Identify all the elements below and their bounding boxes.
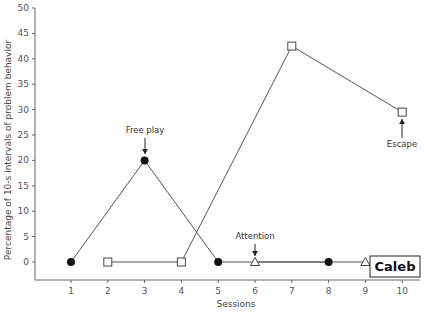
annotations: Free play Attention Escape bbox=[126, 119, 418, 256]
arrow-escape-head bbox=[399, 119, 405, 124]
series-lines bbox=[71, 46, 402, 262]
x-tick-label: 1 bbox=[68, 286, 74, 296]
x-tick-label: 3 bbox=[142, 286, 148, 296]
data-point-circle bbox=[214, 258, 222, 266]
data-point-circle bbox=[67, 258, 75, 266]
x-tick-label: 5 bbox=[215, 286, 221, 296]
data-point-square bbox=[288, 42, 296, 50]
y-tick-label: 10 bbox=[18, 206, 30, 216]
data-point-square bbox=[104, 258, 112, 266]
y-tick-label: 25 bbox=[18, 130, 29, 140]
y-tick-label: 0 bbox=[23, 257, 29, 267]
y-tick-label: 45 bbox=[18, 28, 29, 38]
line-chart: 0510152025303540455012345678910 Free pla… bbox=[0, 0, 424, 312]
y-tick-label: 50 bbox=[18, 3, 30, 13]
annotation-escape: Escape bbox=[387, 139, 417, 149]
arrow-attention-head bbox=[252, 251, 258, 256]
data-point-circle bbox=[325, 258, 333, 266]
series-line-free-play bbox=[71, 160, 329, 262]
panel-label: Caleb bbox=[375, 259, 416, 274]
x-tick-label: 7 bbox=[289, 286, 295, 296]
x-tick-label: 9 bbox=[363, 286, 369, 296]
y-tick-label: 40 bbox=[18, 54, 30, 64]
panel-label-box: Caleb bbox=[370, 256, 420, 277]
y-tick-label: 30 bbox=[18, 105, 30, 115]
y-tick-label: 20 bbox=[18, 155, 30, 165]
x-tick-label: 10 bbox=[396, 286, 408, 296]
annotation-free-play: Free play bbox=[126, 125, 165, 135]
annotation-attention: Attention bbox=[235, 231, 274, 241]
x-tick-label: 2 bbox=[105, 286, 111, 296]
series-line-escape bbox=[108, 46, 402, 262]
y-axis-title: Percentage of 10-s intervals of problem … bbox=[3, 40, 13, 261]
x-tick-label: 6 bbox=[252, 286, 258, 296]
y-tick-label: 35 bbox=[18, 79, 29, 89]
data-point-square bbox=[177, 258, 185, 266]
y-tick-label: 5 bbox=[23, 232, 29, 242]
x-tick-label: 8 bbox=[326, 286, 332, 296]
data-point-circle bbox=[141, 156, 149, 164]
y-tick-label: 15 bbox=[18, 181, 29, 191]
x-axis-title: Sessions bbox=[216, 299, 255, 309]
data-point-square bbox=[398, 108, 406, 116]
x-tick-label: 4 bbox=[179, 286, 185, 296]
arrow-free-play-head bbox=[142, 149, 148, 154]
